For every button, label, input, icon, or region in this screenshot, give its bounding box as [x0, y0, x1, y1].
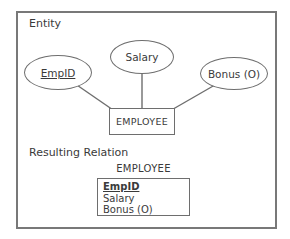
- relation-box: EmpID Salary Bonus (O): [97, 178, 190, 216]
- er-diagram-figure: Entity EmpID Salary Bonus (O) EMPLOYEE R…: [0, 0, 290, 239]
- attribute-ellipse-bonus: Bonus (O): [200, 57, 268, 90]
- relation-row-bonus: Bonus (O): [103, 204, 189, 216]
- attribute-ellipse-empid: EmpID: [24, 55, 92, 90]
- attribute-ellipse-salary: Salary: [110, 40, 174, 74]
- attribute-label-salary: Salary: [126, 51, 159, 63]
- attribute-label-bonus: Bonus (O): [208, 68, 260, 80]
- relation-title: EMPLOYEE: [97, 163, 190, 174]
- entity-rectangle: EMPLOYEE: [109, 108, 175, 135]
- relation-row-empid: EmpID: [103, 181, 189, 193]
- entity-name: EMPLOYEE: [116, 116, 168, 127]
- relation-row-salary: Salary: [103, 193, 189, 205]
- attribute-label-empid: EmpID: [41, 67, 76, 79]
- relation-section-label: Resulting Relation: [29, 146, 128, 159]
